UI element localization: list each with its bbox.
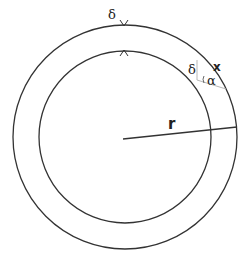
x-label: x [213,60,221,74]
annulus-diagram: δ δ x α r [0,0,246,263]
inner-circle [39,51,211,223]
alpha-angle-arc [203,76,204,83]
delta-side-label: δ [188,62,196,77]
radius-line [123,127,237,139]
r-label: r [168,115,176,133]
outer-circle [13,25,237,249]
alpha-label: α [207,73,216,88]
delta-top-label: δ [108,7,116,22]
